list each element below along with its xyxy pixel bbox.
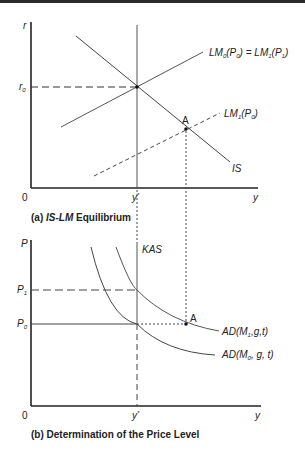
p1-label: P1 [17,284,27,296]
p0-label: P0 [17,318,28,330]
y-axis-label-a: y [252,192,259,203]
p-axis-label: P [21,238,28,249]
ad1-curve [116,247,219,331]
panel-b-caption: (b) Determination of the Price Level [31,429,200,440]
equilibrium-point-e0 [135,85,139,89]
panel-a-caption: (a) IS-LM Equilibrium [31,212,131,223]
is-label: IS [232,163,242,174]
origin-label-a: 0 [22,192,28,203]
origin-label-b: 0 [22,410,28,421]
point-a-top [184,127,188,131]
point-a-label-bottom: A [190,313,197,324]
point-a-bottom [184,322,188,326]
ad0-curve [91,247,215,355]
ad1-label: AD(M1,g,t) [221,326,268,338]
panel-b-price-level: P P1 P0 KAS A AD(M1,g,t) AD(M0, g, t) 0 … [17,238,274,440]
panel-a-is-lm: r r0 0 y* y A IS LM0(P0) = LM1(P1) LM1(P… [19,20,288,223]
lm1-label: LM1(P0) [224,108,258,120]
point-a-label-top: A [182,115,189,126]
lm0-label: LM0(P0) = LM1(P1) [209,47,288,59]
ystar-label-a: y* [131,192,140,203]
ad0-label: AD(M0, g, t) [221,349,274,361]
is-curve [76,36,230,162]
lm1-dashed-curve [94,113,220,176]
y-axis-label-b: y [254,410,261,421]
kas-label: KAS [142,244,162,255]
economics-diagram: r r0 0 y* y A IS LM0(P0) = LM1(P1) LM1(P… [0,0,305,455]
ystar-label-b: y* [131,410,140,421]
r-axis-label: r [23,20,27,31]
r0-label: r0 [19,81,26,93]
